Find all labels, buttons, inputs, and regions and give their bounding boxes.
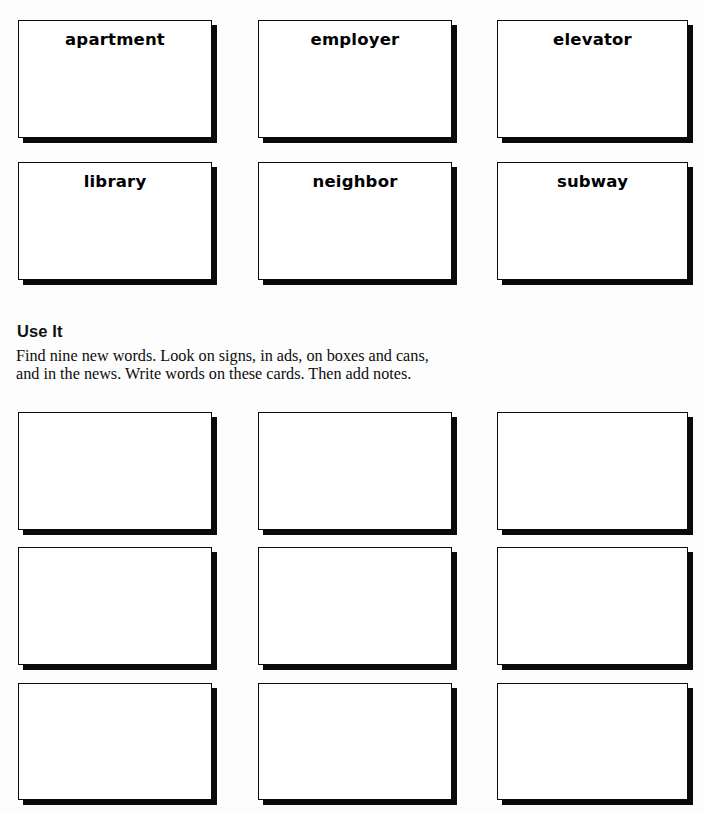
worksheet-page: apartment employer elevator library neig… (0, 0, 703, 813)
blank-card[interactable] (497, 547, 688, 665)
word-card-label: apartment (19, 30, 211, 49)
word-card-label: subway (498, 172, 687, 191)
word-card-label: elevator (498, 30, 687, 49)
instruction-line: and in the news. Write words on these ca… (16, 366, 446, 384)
word-card[interactable]: apartment (18, 20, 212, 138)
blank-card[interactable] (497, 412, 688, 530)
use-it-instructions: Find nine new words. Look on signs, in a… (16, 348, 446, 383)
instruction-line: Find nine new words. Look on signs, in a… (16, 348, 446, 366)
word-card-label: neighbor (259, 172, 451, 191)
word-card[interactable]: subway (497, 162, 688, 280)
blank-card[interactable] (18, 412, 212, 530)
blank-card[interactable] (258, 547, 452, 665)
word-card[interactable]: elevator (497, 20, 688, 138)
blank-card[interactable] (18, 683, 212, 800)
use-it-heading: Use It (17, 322, 63, 341)
word-card[interactable]: neighbor (258, 162, 452, 280)
word-card[interactable]: library (18, 162, 212, 280)
word-card-label: employer (259, 30, 451, 49)
word-card[interactable]: employer (258, 20, 452, 138)
blank-card[interactable] (18, 547, 212, 665)
blank-card[interactable] (258, 683, 452, 800)
blank-card[interactable] (497, 683, 688, 800)
word-card-label: library (19, 172, 211, 191)
blank-card[interactable] (258, 412, 452, 530)
